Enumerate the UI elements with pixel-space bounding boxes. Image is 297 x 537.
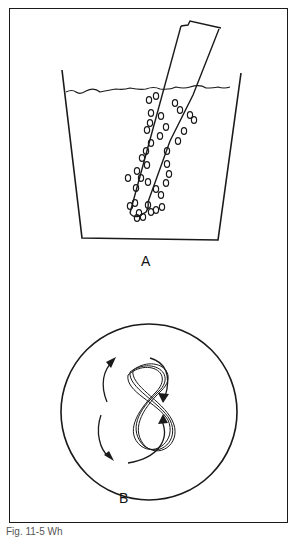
arrow-lower-left-arc: [98, 415, 109, 457]
bubble: [157, 133, 162, 140]
bubble: [163, 124, 168, 131]
bubble: [164, 161, 169, 168]
bubble: [175, 138, 180, 145]
arrow-heads: [104, 357, 169, 461]
bubble: [159, 204, 164, 211]
bubble: [191, 117, 196, 124]
arrowhead-icon: [158, 393, 169, 403]
figure-caption: Fig. 11-5 Wh: [6, 526, 63, 537]
liquid-surface: [66, 86, 230, 94]
bubble: [153, 186, 158, 193]
panel-b-label: B: [119, 490, 128, 506]
bubble: [144, 162, 149, 169]
arrow-upper-left-arc: [103, 361, 113, 402]
arrowhead-icon: [106, 357, 116, 368]
bubble: [181, 128, 186, 135]
bubble: [163, 180, 168, 187]
test-tube: [130, 21, 221, 217]
bubble: [153, 207, 158, 214]
bubble: [145, 179, 150, 186]
figure-eight-strand: [130, 366, 173, 450]
bubble: [153, 93, 158, 100]
bubble: [166, 171, 171, 178]
bubble: [177, 107, 182, 114]
bubble: [144, 127, 149, 134]
arrowhead-icon: [104, 451, 114, 461]
beaker-outline: [62, 70, 241, 240]
bubble: [172, 100, 177, 107]
tube-top-edge: [181, 21, 221, 28]
bubble: [140, 214, 145, 221]
container-circle: [61, 324, 237, 500]
bubble: [158, 113, 163, 120]
bubble: [147, 120, 152, 127]
bubble: [148, 110, 153, 117]
bubbles: [125, 93, 196, 222]
beaker: [62, 70, 241, 240]
panel-a-label: A: [141, 253, 150, 269]
bubble: [134, 168, 139, 175]
bubble: [139, 155, 144, 162]
bubble: [146, 97, 151, 104]
bubble: [158, 192, 163, 199]
bubble: [125, 175, 130, 182]
